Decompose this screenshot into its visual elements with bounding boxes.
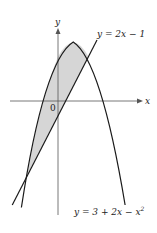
x-axis-arrow-icon bbox=[137, 99, 143, 104]
origin-label: 0 bbox=[50, 103, 56, 113]
y-axis-arrow-icon bbox=[56, 28, 61, 34]
parabola-label-exponent: 2 bbox=[139, 205, 144, 212]
y-axis-label: y bbox=[54, 17, 61, 27]
parabola-label: y = 3 + 2x − x2 bbox=[73, 205, 144, 217]
x-axis-label: x bbox=[145, 96, 150, 106]
graph: y x 0 y = 2x − 1 y = 3 + 2x − x2 bbox=[0, 0, 157, 233]
parabola-label-text: y = 3 + 2x − x bbox=[73, 207, 140, 217]
line-curve bbox=[12, 40, 97, 205]
line-label: y = 2x − 1 bbox=[96, 29, 145, 39]
